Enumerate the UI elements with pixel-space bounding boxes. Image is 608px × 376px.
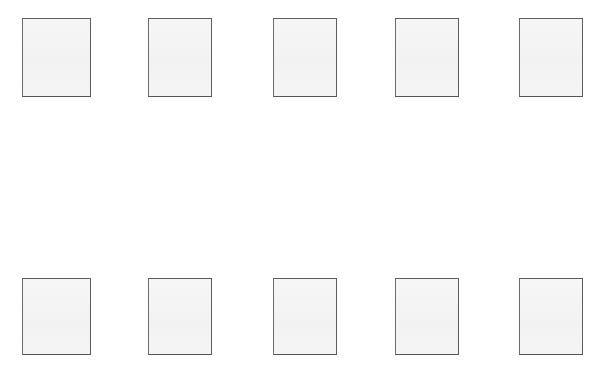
placeholder-box-bottom-3-content bbox=[274, 279, 336, 354]
placeholder-box-bottom-4-content bbox=[396, 279, 458, 354]
placeholder-box-bottom-2-content bbox=[149, 279, 211, 354]
placeholder-box-top-1[interactable] bbox=[22, 18, 91, 97]
placeholder-box-top-5[interactable] bbox=[519, 18, 583, 97]
page-canvas bbox=[0, 0, 608, 376]
placeholder-box-top-2-content bbox=[149, 19, 211, 96]
placeholder-box-bottom-5[interactable] bbox=[519, 278, 583, 355]
placeholder-box-bottom-2[interactable] bbox=[148, 278, 212, 355]
placeholder-row-top bbox=[0, 18, 608, 98]
placeholder-box-bottom-1-content bbox=[23, 279, 90, 354]
placeholder-box-top-4[interactable] bbox=[395, 18, 459, 97]
placeholder-box-bottom-4[interactable] bbox=[395, 278, 459, 355]
placeholder-box-bottom-5-content bbox=[520, 279, 582, 354]
placeholder-box-top-2[interactable] bbox=[148, 18, 212, 97]
placeholder-box-top-4-content bbox=[396, 19, 458, 96]
placeholder-row-bottom bbox=[0, 278, 608, 358]
placeholder-box-top-3-content bbox=[274, 19, 336, 96]
placeholder-box-top-1-content bbox=[23, 19, 90, 96]
placeholder-box-top-5-content bbox=[520, 19, 582, 96]
placeholder-box-top-3[interactable] bbox=[273, 18, 337, 97]
placeholder-box-bottom-1[interactable] bbox=[22, 278, 91, 355]
placeholder-box-bottom-3[interactable] bbox=[273, 278, 337, 355]
